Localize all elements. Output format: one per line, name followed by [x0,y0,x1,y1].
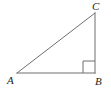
vertex-label-a: A [7,75,14,86]
vertex-label-c: C [92,1,99,12]
vertex-label-b: B [95,76,102,87]
right-angle-marker-icon [83,61,95,73]
geometry-figure: A B C [0,0,111,92]
